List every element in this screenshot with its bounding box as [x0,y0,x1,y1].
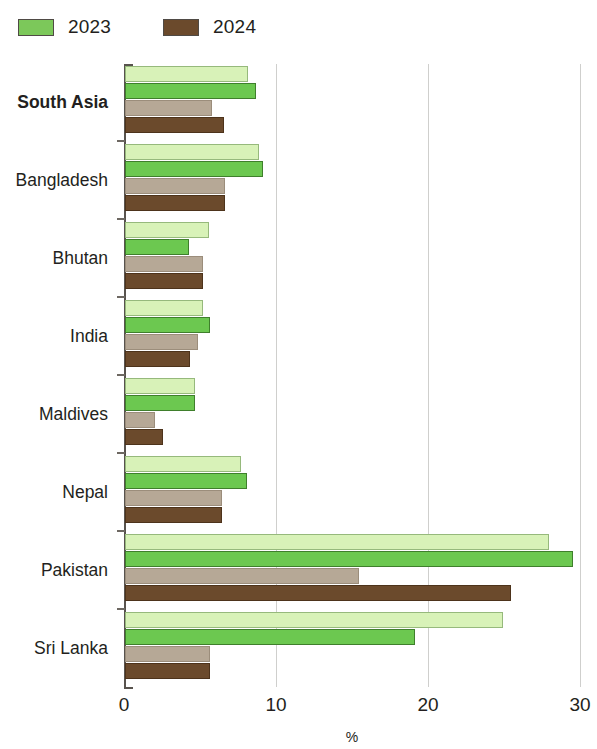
bar-group-india: India [0,298,597,376]
bar-group-pakistan: Pakistan [0,532,597,610]
x-tick-label-0: 0 [119,694,130,716]
category-label-sri-lanka: Sri Lanka [0,638,108,659]
category-label-maldives: Maldives [0,404,108,425]
bar-nepal-2023-light [125,456,241,472]
bar-bangladesh-2024-dark [125,195,225,211]
category-label-bhutan: Bhutan [0,248,108,269]
category-label-bangladesh: Bangladesh [0,170,108,191]
x-axis-title: % [346,729,358,745]
bar-pakistan-2023-dark [125,551,573,567]
y-tick-mark-4 [117,374,125,376]
bar-group-sri-lanka: Sri Lanka [0,610,597,688]
bar-group-south-asia: South Asia [0,64,597,142]
y-tick-mark-6 [117,530,125,532]
bar-sri-lanka-2023-dark [125,629,415,645]
bar-south-asia-2023-dark [125,83,256,99]
bar-bhutan-2024-dark [125,273,203,289]
y-tick-mark-2 [117,218,125,220]
bar-india-2024-dark [125,351,190,367]
x-tick-label-10: 10 [265,694,286,716]
bar-india-2024-light [125,334,198,350]
bar-pakistan-2023-light [125,534,549,550]
bar-group-maldives: Maldives [0,376,597,454]
bar-india-2023-dark [125,317,210,333]
bar-maldives-2024-dark [125,429,163,445]
bar-bangladesh-2024-light [125,178,225,194]
bar-south-asia-2023-light [125,66,248,82]
bar-bangladesh-2023-dark [125,161,263,177]
bar-sri-lanka-2024-light [125,646,210,662]
bar-india-2023-light [125,300,203,316]
bar-group-bhutan: Bhutan [0,220,597,298]
bar-nepal-2024-light [125,490,222,506]
bar-bangladesh-2023-light [125,144,259,160]
bar-maldives-2024-light [125,412,155,428]
x-tick-label-30: 30 [569,694,590,716]
bar-maldives-2023-light [125,378,195,394]
category-label-south-asia: South Asia [0,92,108,113]
bar-bhutan-2024-light [125,256,203,272]
y-tick-mark-5 [117,452,125,454]
y-tick-mark-7 [117,608,125,610]
bar-bhutan-2023-dark [125,239,189,255]
x-tick-label-20: 20 [417,694,438,716]
bar-nepal-2024-dark [125,507,222,523]
bar-group-nepal: Nepal [0,454,597,532]
category-label-nepal: Nepal [0,482,108,503]
bar-sri-lanka-2023-light [125,612,503,628]
bar-maldives-2023-dark [125,395,195,411]
y-tick-mark-3 [117,296,125,298]
bar-pakistan-2024-dark [125,585,511,601]
bar-south-asia-2024-dark [125,117,224,133]
bar-sri-lanka-2024-dark [125,663,210,679]
chart-plot-area: 0102030 South AsiaBangladeshBhutanIndiaM… [0,0,597,749]
bar-nepal-2023-dark [125,473,247,489]
y-tick-mark-1 [117,140,125,142]
bar-bhutan-2023-light [125,222,209,238]
category-label-india: India [0,326,108,347]
bar-group-bangladesh: Bangladesh [0,142,597,220]
bar-south-asia-2024-light [125,100,212,116]
category-label-pakistan: Pakistan [0,560,108,581]
bar-pakistan-2024-light [125,568,359,584]
